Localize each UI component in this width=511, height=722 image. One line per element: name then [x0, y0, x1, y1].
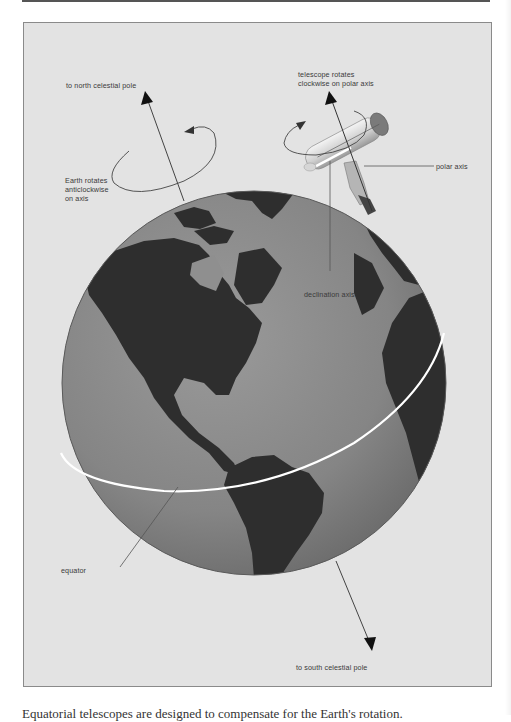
south-axis-arrow: [336, 561, 376, 651]
illustration-frame: to north celestial pole telescope rotate…: [23, 22, 492, 687]
earth-rotation-label: Earth rotates anticlockwise on axis: [65, 176, 109, 203]
earth-rotation-arrow-icon: [112, 126, 216, 192]
declination-axis-label: declination axis: [304, 290, 355, 299]
polar-axis-label: polar axis: [436, 162, 468, 171]
telescope-rotation-line1: telescope rotates: [298, 70, 374, 79]
earth-rotation-line1: Earth rotates: [65, 176, 109, 185]
north-axis-arrow: [141, 91, 184, 201]
telescope-rotation-line2: clockwise on polar axis: [298, 79, 374, 88]
figure-caption: Equatorial telescopes are designed to co…: [22, 706, 403, 722]
telescope: [301, 110, 392, 215]
top-rule: [22, 0, 490, 2]
earth-rotation-line3: on axis: [65, 194, 109, 203]
south-pole-label: to south celestial pole: [296, 663, 367, 672]
earth-globe: [62, 175, 454, 621]
telescope-rotation-label: telescope rotates clockwise on polar axi…: [298, 70, 374, 88]
north-pole-label: to north celestial pole: [66, 81, 136, 90]
page-edge: [505, 0, 511, 715]
earth-rotation-line2: anticlockwise: [65, 185, 109, 194]
equatorial-mount-diagram: [24, 23, 492, 687]
equator-label: equator: [61, 566, 86, 575]
